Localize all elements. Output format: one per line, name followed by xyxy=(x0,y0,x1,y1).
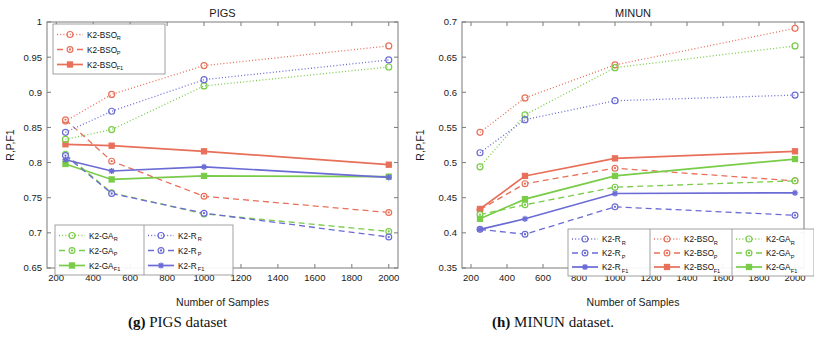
chart-legend[interactable]: K2-RRK2-RPK2-RF1K2-BSORK2-BSOPK2-BSOF1K2… xyxy=(568,229,814,276)
x-tick-label: 1400 xyxy=(267,272,288,283)
data-point-marker xyxy=(612,173,617,178)
data-point-marker xyxy=(792,149,797,154)
legend-subscript: P xyxy=(622,254,626,260)
series-line xyxy=(480,95,795,153)
y-tick-label: 0.6 xyxy=(444,87,457,98)
data-point-marker xyxy=(477,206,482,211)
y-tick-label: 0.7 xyxy=(29,227,42,238)
legend-subscript: P xyxy=(117,50,121,56)
data-point-marker xyxy=(109,168,115,174)
data-point-marker xyxy=(201,83,207,89)
figure-panel-pair: PIGS200400600800100012001400160018002000… xyxy=(0,0,814,342)
legend-label: K2-BSO xyxy=(87,61,117,70)
legend-subscript: R xyxy=(622,240,626,246)
chart-panel-minun: MINUN20040060080010001200140016001800200… xyxy=(410,0,814,310)
legend-label: K2-BSO xyxy=(684,249,714,258)
data-point-marker xyxy=(201,149,206,154)
legend-subscript: R xyxy=(791,240,795,246)
x-axis-label: Number of Samples xyxy=(587,296,680,308)
caption-pigs-prefix: (g) xyxy=(128,314,146,330)
legend-label: K2-GA xyxy=(89,247,114,256)
legend-subscript: P xyxy=(198,251,202,257)
y-tick-label: 0.65 xyxy=(439,52,458,63)
x-tick-label: 200 xyxy=(463,272,479,283)
legend-subscript: F1 xyxy=(714,268,721,274)
data-point-marker xyxy=(158,262,164,268)
legend-subscript: R xyxy=(198,236,202,242)
legend-subscript: F1 xyxy=(198,266,205,272)
y-tick-label: 0.95 xyxy=(24,52,43,63)
data-point-marker xyxy=(62,157,68,163)
y-tick-label: 0.4 xyxy=(444,227,457,238)
data-point-marker xyxy=(477,216,482,221)
y-tick-label: 0.7 xyxy=(444,16,457,27)
data-point-marker xyxy=(792,156,797,161)
legend-label: K2-GA xyxy=(766,263,791,272)
legend-subscript: P xyxy=(791,254,795,260)
legend-label: K2-R xyxy=(602,235,621,244)
y-axis-label: R,P,F1 xyxy=(414,129,426,160)
legend-label: K2-R xyxy=(602,249,621,258)
legend-label: K2-R xyxy=(602,263,621,272)
legend-label: K2-R xyxy=(178,262,197,271)
series-k2-ga-f1 xyxy=(477,156,797,221)
data-point-marker xyxy=(522,173,527,178)
x-tick-label: 2000 xyxy=(378,272,399,283)
x-axis-label: Number of Samples xyxy=(176,296,269,308)
data-point-marker xyxy=(201,164,207,170)
legend-label: K2-BSO xyxy=(87,46,117,55)
data-point-marker xyxy=(792,92,798,98)
data-point-marker xyxy=(201,173,206,178)
caption-row: (g) PIGS dataset (h) MINUN dataset. xyxy=(0,308,814,342)
series-k2-ga-r xyxy=(62,64,391,142)
caption-minun-prefix: (h) xyxy=(492,314,510,330)
caption-minun: (h) MINUN dataset. xyxy=(492,314,614,331)
series-line xyxy=(65,120,388,213)
legend-label: K2-BSO xyxy=(684,263,714,272)
data-point-marker xyxy=(522,216,528,222)
series-line xyxy=(480,46,795,167)
y-tick-label: 0.35 xyxy=(439,262,458,273)
legend-subscript: R xyxy=(117,35,121,41)
caption-pigs-text: PIGS dataset xyxy=(146,314,228,330)
data-point-marker xyxy=(109,177,114,182)
chart-title: PIGS xyxy=(209,7,235,19)
data-point-marker xyxy=(792,190,798,196)
series-k2-ga-r xyxy=(477,43,798,170)
legend-label: K2-BSO xyxy=(87,31,117,40)
y-tick-label: 0.75 xyxy=(24,192,43,203)
legend-subscript: F1 xyxy=(114,266,121,272)
legend-subscript: F1 xyxy=(622,268,629,274)
legend-subscript: R xyxy=(714,240,718,246)
data-point-marker xyxy=(612,190,618,196)
chart-title: MINUN xyxy=(615,7,651,19)
x-tick-label: 1600 xyxy=(304,272,325,283)
y-tick-label: 0.45 xyxy=(439,192,458,203)
legend-label: K2-R xyxy=(178,247,197,256)
legend-subscript: P xyxy=(714,254,718,260)
chart-legend[interactable]: K2-BSORK2-BSOPK2-BSOF1 xyxy=(53,24,165,74)
legend-subscript: F1 xyxy=(117,65,124,71)
chart-svg: PIGS200400600800100012001400160018002000… xyxy=(0,0,410,310)
legend-subscript: P xyxy=(114,251,118,257)
data-point-marker xyxy=(109,108,115,114)
y-axis-label: R,P,F1 xyxy=(4,129,16,160)
data-point-marker xyxy=(477,226,483,232)
data-point-marker xyxy=(386,162,391,167)
data-point-marker xyxy=(69,263,74,268)
chart-legend[interactable]: K2-GARK2-GAPK2-GAF1K2-RRK2-RPK2-RF1 xyxy=(55,225,233,275)
legend-label: K2-GA xyxy=(766,235,791,244)
legend-label: K2-GA xyxy=(766,249,791,258)
y-tick-label: 0.85 xyxy=(24,122,43,133)
chart-svg: MINUN20040060080010001200140016001800200… xyxy=(410,0,814,310)
data-point-marker xyxy=(109,143,114,148)
legend-subscript: R xyxy=(114,236,118,242)
series-k2-bso-r xyxy=(477,25,798,135)
x-tick-label: 1200 xyxy=(230,272,251,283)
x-tick-label: 600 xyxy=(535,272,551,283)
data-point-marker xyxy=(522,197,527,202)
data-point-marker xyxy=(664,264,669,269)
y-tick-label: 0.65 xyxy=(24,262,43,273)
legend-label: K2-GA xyxy=(89,262,114,271)
data-point-marker xyxy=(522,95,528,101)
